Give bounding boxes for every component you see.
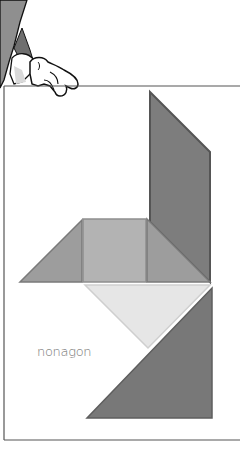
tangram-scene: [0, 0, 240, 449]
tangram-square: [83, 219, 146, 282]
shape-caption: nonagon: [37, 344, 91, 359]
glove-hand: [30, 58, 78, 97]
cartoon-hand-icon: [0, 0, 78, 96]
tangram-figure: [20, 92, 212, 418]
tangram-left-triangle: [20, 220, 82, 282]
